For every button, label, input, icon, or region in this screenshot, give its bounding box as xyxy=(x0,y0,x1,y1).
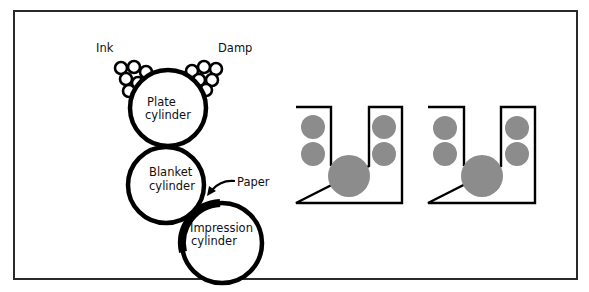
damp-roller xyxy=(198,61,210,73)
printing-unit-1 xyxy=(296,107,402,203)
ink-label: Ink xyxy=(96,41,114,55)
small-roller xyxy=(301,142,325,166)
impression-label-line2: cylinder xyxy=(191,234,237,248)
printing-unit-2 xyxy=(428,107,535,203)
large-roller xyxy=(461,155,503,197)
small-roller xyxy=(433,116,457,140)
damp-label: Damp xyxy=(218,41,252,55)
plate-label-line2: cylinder xyxy=(145,108,191,122)
small-roller xyxy=(372,142,396,166)
blanket-label-line1: Blanket xyxy=(149,165,193,179)
plate-label-line1: Plate xyxy=(147,95,176,109)
press-diagram: Ink Damp Plate cylinder Blanket cylinder… xyxy=(0,0,589,292)
paper-label: Paper xyxy=(237,175,270,189)
small-roller xyxy=(505,116,529,140)
small-roller xyxy=(372,115,396,139)
ink-roller xyxy=(128,61,140,73)
small-roller xyxy=(301,115,325,139)
paper-arrow-line xyxy=(212,181,235,190)
impression-label-line1: Impression xyxy=(190,221,253,235)
large-roller xyxy=(328,155,370,197)
small-roller xyxy=(505,142,529,166)
blanket-label-line2: cylinder xyxy=(149,179,195,193)
small-roller xyxy=(433,142,457,166)
ink-roller xyxy=(120,73,132,85)
